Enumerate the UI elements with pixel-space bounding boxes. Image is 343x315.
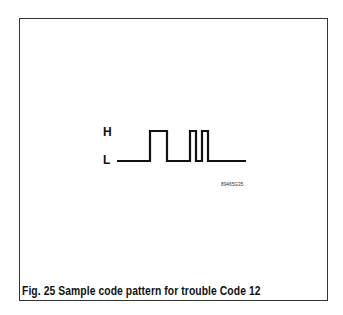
code-waveform (0, 0, 343, 315)
figure-caption: Fig. 25 Sample code pattern for trouble … (22, 284, 261, 298)
image-code: 89465G35 (221, 181, 243, 187)
